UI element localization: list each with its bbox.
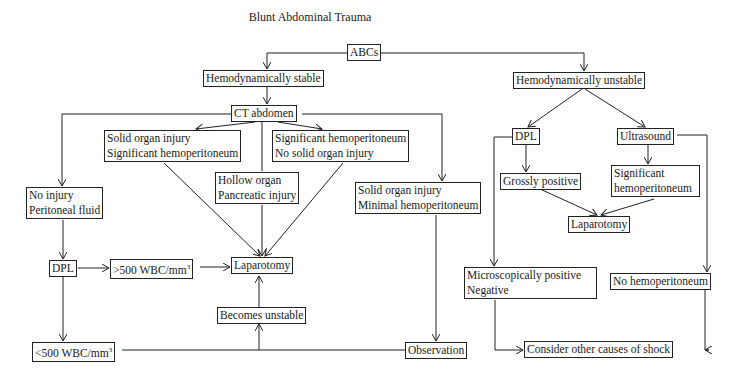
node-solid-organ-minimal-hemo: Solid organ injury Minimal hemoperitoneu…: [355, 182, 481, 214]
node-gt500-wbc: >500 WBC/mm3: [110, 259, 193, 279]
node-label: Significant hemoperitoneum: [275, 131, 406, 146]
node-hollow-organ-pancreatic: Hollow organ Pancreatic injury: [215, 172, 299, 204]
node-label: hemoperitoneum: [614, 181, 697, 196]
node-consider-other-causes: Consider other causes of shock: [524, 341, 673, 358]
node-no-injury-peritoneal-fluid: No injury Peritoneal fluid: [26, 187, 103, 219]
node-dpl-left: DPL: [49, 260, 77, 277]
node-hemodynamically-unstable: Hemodynamically unstable: [513, 72, 645, 89]
node-laparotomy-center: Laparotomy: [231, 257, 293, 274]
node-significant-hemo-us: Significant hemoperitoneum: [611, 165, 700, 197]
node-label: Ultrasound: [620, 130, 671, 142]
node-label: Becomes unstable: [220, 309, 303, 321]
node-label: Grossly positive: [503, 175, 578, 187]
node-microscopically-positive-negative: Microscopically positive Negative: [464, 267, 597, 299]
node-label: Peritoneal fluid: [29, 203, 100, 218]
node-label: >500 WBC/mm: [113, 264, 187, 276]
node-label: DPL: [52, 262, 74, 274]
node-ct-abdomen: CT abdomen: [231, 105, 297, 122]
node-significant-hemo-no-solid: Significant hemoperitoneum No solid orga…: [272, 130, 409, 162]
node-label: Solid organ injury: [107, 131, 238, 146]
node-label: Consider other causes of shock: [527, 343, 670, 355]
node-label: Solid organ injury: [358, 183, 478, 198]
node-label: Minimal hemoperitoneum: [358, 198, 478, 213]
node-label: Hollow organ: [218, 173, 296, 188]
node-dpl-right: DPL: [512, 128, 540, 145]
node-no-hemoperitoneum: No hemoperitoneum: [610, 273, 711, 290]
node-label: DPL: [515, 130, 537, 142]
node-label: Hemodynamically stable: [206, 72, 321, 84]
node-hemodynamically-stable: Hemodynamically stable: [203, 70, 324, 87]
node-label: No injury: [29, 188, 100, 203]
node-label: Significant hemoperitoneum: [107, 146, 238, 161]
node-label: Hemodynamically unstable: [516, 74, 642, 86]
node-observation: Observation: [405, 342, 467, 359]
superscript: 3: [109, 346, 113, 354]
node-label: Laparotomy: [571, 218, 627, 230]
node-grossly-positive: Grossly positive: [500, 173, 581, 190]
node-label: Microscopically positive: [467, 268, 594, 283]
node-abcs: ABCs: [347, 44, 381, 61]
node-label: ABCs: [350, 46, 378, 58]
node-laparotomy-right: Laparotomy: [568, 216, 630, 233]
node-label: CT abdomen: [234, 107, 294, 119]
superscript: 3: [187, 263, 191, 271]
node-label: No hemoperitoneum: [613, 275, 708, 287]
node-label: No solid organ injury: [275, 146, 406, 161]
node-ultrasound: Ultrasound: [617, 128, 674, 145]
node-label: Pancreatic injury: [218, 188, 296, 203]
node-label: Laparotomy: [234, 259, 290, 271]
node-label: Observation: [408, 344, 464, 356]
node-label: Negative: [467, 283, 594, 298]
node-label: Significant: [614, 166, 697, 181]
node-becomes-unstable: Becomes unstable: [217, 307, 306, 324]
node-solid-organ-significant-hemo: Solid organ injury Significant hemoperit…: [104, 130, 241, 162]
node-label: <500 WBC/mm: [35, 347, 109, 359]
node-lt500-wbc: <500 WBC/mm3: [32, 342, 115, 362]
